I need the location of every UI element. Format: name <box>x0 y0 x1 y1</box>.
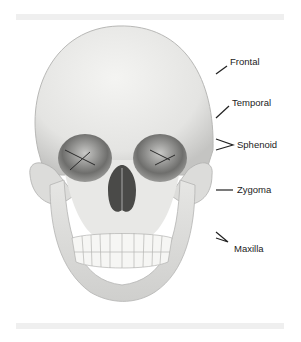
label-zygoma: Zygoma <box>237 184 271 195</box>
clipped-caption <box>60 335 260 342</box>
skull-illustration <box>0 0 301 342</box>
label-sphenoid: Sphenoid <box>237 139 277 150</box>
label-maxilla: Maxilla <box>234 243 264 254</box>
label-temporal: Temporal <box>232 97 271 108</box>
bottom-band <box>16 323 284 329</box>
label-frontal: Frontal <box>230 56 260 67</box>
